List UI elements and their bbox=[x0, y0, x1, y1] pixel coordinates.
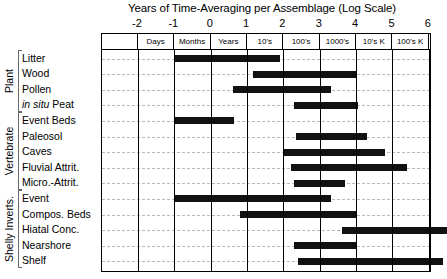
unit-cell-1000-s: 1000's bbox=[320, 34, 356, 50]
row-label-pollen: Pollen bbox=[22, 83, 51, 95]
unit-cell-100-s-k: 100's K bbox=[392, 34, 428, 50]
column-separator bbox=[392, 50, 393, 271]
x-tick-5: 5 bbox=[380, 17, 402, 29]
column-separator bbox=[429, 50, 430, 271]
row-label-fluvial-attrit-: Fluvial Attrit. bbox=[22, 161, 79, 173]
row-label-italic: in situ bbox=[22, 98, 49, 110]
row-gridline bbox=[102, 137, 430, 138]
plot-frame: DaysMonthsYears10's100's1000's10's K100'… bbox=[101, 33, 431, 272]
bar-litter bbox=[174, 55, 279, 62]
column-separator bbox=[174, 50, 175, 271]
row-label-compos-beds: Compos. Beds bbox=[22, 208, 91, 220]
bar-event-beds bbox=[174, 117, 234, 124]
unit-cell-blank-9 bbox=[429, 34, 447, 50]
x-tick-2: 2 bbox=[271, 17, 293, 29]
unit-cell-months: Months bbox=[174, 34, 210, 50]
column-separator bbox=[138, 50, 139, 271]
column-separator bbox=[211, 50, 212, 271]
column-separator bbox=[283, 50, 284, 271]
row-label-micro-attrit-: Micro.-Attrit. bbox=[22, 176, 79, 188]
unit-cell-10-s-k: 10's K bbox=[356, 34, 392, 50]
unit-cell-10-s: 10's bbox=[247, 34, 283, 50]
bar-fluvial-attrit- bbox=[291, 164, 407, 171]
unit-band-header: DaysMonthsYears10's100's1000's10's K100'… bbox=[102, 34, 430, 50]
group-bracket-vertebrate bbox=[18, 112, 22, 190]
row-label-event: Event bbox=[22, 192, 49, 204]
row-label-nearshore: Nearshore bbox=[22, 239, 71, 251]
row-label-hiatal-conc-: Hiatal Conc. bbox=[22, 223, 79, 235]
row-label-paleosol: Paleosol bbox=[22, 130, 62, 142]
row-label-peat: in situ Peat bbox=[22, 98, 74, 110]
row-label-litter: Litter bbox=[22, 52, 45, 64]
group-label-vertebrate: Vertebrate bbox=[0, 112, 18, 190]
plot-body bbox=[102, 50, 430, 271]
x-tick-4: 4 bbox=[344, 17, 366, 29]
row-gridline bbox=[102, 183, 430, 184]
column-separator bbox=[356, 50, 357, 271]
unit-cell-blank-0 bbox=[120, 34, 138, 50]
column-separator bbox=[320, 50, 321, 271]
x-tick-0: 0 bbox=[199, 17, 221, 29]
x-tick-neg2: -2 bbox=[126, 17, 148, 29]
x-axis-ticks: -2-10123456 bbox=[0, 17, 434, 30]
group-bracket-shelly-inverts- bbox=[18, 190, 22, 268]
row-label-shelf: Shelf bbox=[22, 254, 46, 266]
group-bracket-plant bbox=[18, 50, 22, 112]
column-separator bbox=[247, 50, 248, 271]
bar-event bbox=[174, 195, 330, 202]
unit-cell-days: Days bbox=[138, 34, 174, 50]
row-gridline bbox=[102, 246, 430, 247]
bar-wood bbox=[253, 71, 357, 78]
bar-compos-beds bbox=[240, 211, 356, 218]
bar-hiatal-conc- bbox=[342, 227, 447, 234]
chart-title: Years of Time-Averaging per Assemblage (… bbox=[90, 2, 434, 14]
x-tick-6: 6 bbox=[417, 17, 439, 29]
group-label-text: Shelly Inverts. bbox=[3, 180, 15, 278]
bar-caves bbox=[283, 149, 385, 156]
unit-cell-years: Years bbox=[211, 34, 247, 50]
row-label-panel: LitterWoodPollenin situ PeatEvent BedsPa… bbox=[0, 49, 101, 273]
x-tick-1: 1 bbox=[235, 17, 257, 29]
unit-cell-100-s: 100's bbox=[283, 34, 319, 50]
bar-in-situ-peat bbox=[294, 102, 358, 109]
row-label-caves: Caves bbox=[22, 145, 52, 157]
x-tick-3: 3 bbox=[308, 17, 330, 29]
x-tick-neg1: -1 bbox=[162, 17, 184, 29]
row-label-event-beds: Event Beds bbox=[22, 114, 76, 126]
row-label-wood: Wood bbox=[22, 67, 49, 79]
row-gridline bbox=[102, 105, 430, 106]
bar-nearshore bbox=[294, 242, 356, 249]
group-label-shelly-inverts-: Shelly Inverts. bbox=[0, 190, 18, 268]
row-gridline bbox=[102, 121, 430, 122]
